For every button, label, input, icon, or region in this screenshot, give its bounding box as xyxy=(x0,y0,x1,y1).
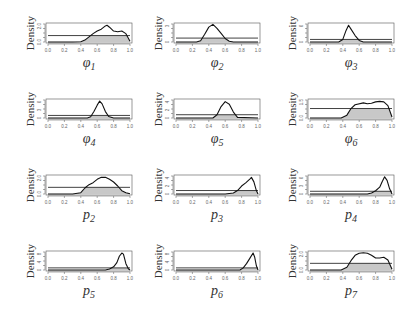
x-tick-label: 0.4 xyxy=(340,124,347,129)
x-tick-label: 0.4 xyxy=(340,276,347,281)
x-tick-label: 0.0 xyxy=(173,276,180,281)
overlap-shaded-area xyxy=(48,187,130,194)
x-tick-label: 0.2 xyxy=(189,200,196,205)
density-panel-phi4: 0.00.20.40.60.81.0036Densityφ4 xyxy=(0,76,134,153)
x-tick-label: 0.6 xyxy=(222,276,229,281)
x-tick-label: 0.0 xyxy=(307,200,314,205)
x-tick-label: 1.0 xyxy=(255,276,262,281)
x-tick-label: 0.2 xyxy=(61,200,68,205)
x-axis-label: p2 xyxy=(82,207,95,224)
x-tick-label: 0.6 xyxy=(356,276,363,281)
y-axis-label: Density xyxy=(24,167,36,202)
y-tick-label: 0 xyxy=(37,116,42,119)
y-tick-label: 6 xyxy=(299,176,304,179)
y-axis-label: Density xyxy=(24,15,36,50)
x-tick-label: 0.4 xyxy=(78,124,85,129)
y-tick-label: 8 xyxy=(37,252,42,255)
x-tick-label: 0.0 xyxy=(45,124,52,129)
x-tick-label: 0.8 xyxy=(372,200,379,205)
y-axis-label: Density xyxy=(24,243,36,278)
x-tick-label: 1.0 xyxy=(389,48,396,53)
y-tick-label: 4 xyxy=(165,176,170,179)
posterior-density-curve xyxy=(48,253,130,270)
x-tick-label: 0.8 xyxy=(372,48,379,53)
x-axis-label: p6 xyxy=(210,283,223,300)
density-panel-phi3: 0.00.20.40.60.81.006Densityφ3 xyxy=(262,0,396,77)
x-tick-label: 0.6 xyxy=(356,48,363,53)
density-panel-phi2: 0.00.20.40.60.81.003Densityφ2 xyxy=(128,0,262,77)
density-plot-grid: 0.00.20.40.60.81.00.02.0Densityφ10.00.20… xyxy=(0,0,403,310)
overlap-shaded-area xyxy=(176,38,258,42)
x-axis-label: p3 xyxy=(210,207,223,224)
x-tick-label: 0.0 xyxy=(173,200,180,205)
x-tick-label: 0.4 xyxy=(206,48,213,53)
x-tick-label: 0.8 xyxy=(372,276,379,281)
density-panel-p5: 0.00.20.40.60.81.0048Densityp5 xyxy=(0,228,134,305)
x-tick-label: 0.4 xyxy=(206,200,213,205)
x-tick-label: 0.8 xyxy=(110,200,117,205)
x-axis-label: φ3 xyxy=(345,55,358,72)
x-tick-label: 0.2 xyxy=(61,276,68,281)
x-tick-label: 0.6 xyxy=(94,276,101,281)
x-tick-label: 0.2 xyxy=(61,48,68,53)
y-tick-label: 0 xyxy=(165,116,170,119)
x-tick-label: 0.0 xyxy=(173,124,180,129)
y-tick-label: 4 xyxy=(37,260,42,263)
y-tick-label: 2 xyxy=(165,108,170,111)
x-tick-label: 0.8 xyxy=(110,48,117,53)
density-panel-p2: 0.00.20.40.60.81.00.02.0Densityp2 xyxy=(0,152,134,229)
y-tick-label: 0 xyxy=(37,268,42,271)
x-axis-label: p7 xyxy=(344,283,358,300)
x-tick-label: 0.6 xyxy=(222,200,229,205)
y-axis-label: Density xyxy=(152,167,164,202)
x-tick-label: 0.4 xyxy=(340,48,347,53)
x-tick-label: 0.6 xyxy=(356,124,363,129)
posterior-density-curve xyxy=(176,253,258,270)
y-tick-label: 0.0 xyxy=(299,266,304,273)
x-tick-label: 0.0 xyxy=(45,48,52,53)
y-axis-label: Density xyxy=(286,15,298,50)
y-tick-label: 0 xyxy=(165,268,170,271)
x-axis-label: φ5 xyxy=(211,131,224,148)
y-axis-label: Density xyxy=(286,243,298,278)
x-tick-label: 0.0 xyxy=(307,124,314,129)
density-panel-p7: 0.00.20.40.60.81.00.02.0Densityp7 xyxy=(262,228,396,305)
x-tick-label: 0.8 xyxy=(110,276,117,281)
y-tick-label: 2 xyxy=(165,184,170,187)
density-panel-phi1: 0.00.20.40.60.81.00.02.0Densityφ1 xyxy=(0,0,134,77)
plot-frame xyxy=(46,99,132,119)
x-tick-label: 0.0 xyxy=(307,48,314,53)
y-tick-label: 4 xyxy=(165,100,170,103)
y-tick-label: 2.0 xyxy=(37,22,42,29)
y-axis-label: Density xyxy=(152,243,164,278)
y-tick-label: 0.0 xyxy=(37,190,42,197)
x-tick-label: 0.2 xyxy=(323,200,330,205)
x-axis-label: φ6 xyxy=(345,131,358,148)
x-tick-label: 1.0 xyxy=(389,276,396,281)
density-panel-phi6: 0.00.20.40.60.81.00.01.5Densityφ6 xyxy=(262,76,396,153)
x-tick-label: 0.0 xyxy=(45,276,52,281)
x-tick-label: 0.8 xyxy=(238,200,245,205)
y-tick-label: 2.0 xyxy=(37,174,42,181)
y-tick-label: 0.0 xyxy=(299,114,304,121)
density-panel-p4: 0.00.20.40.60.81.0036Densityp4 xyxy=(262,152,396,229)
x-tick-label: 0.6 xyxy=(222,48,229,53)
x-tick-label: 0.0 xyxy=(307,276,314,281)
density-panel-p6: 0.00.20.40.60.81.0048Densityp6 xyxy=(128,228,262,305)
x-tick-label: 0.4 xyxy=(206,124,213,129)
x-tick-label: 0.4 xyxy=(206,276,213,281)
y-tick-label: 3 xyxy=(165,24,170,27)
x-tick-label: 0.6 xyxy=(94,124,101,129)
x-tick-label: 0.0 xyxy=(173,48,180,53)
y-tick-label: 4 xyxy=(165,260,170,263)
x-tick-label: 0.8 xyxy=(372,124,379,129)
y-tick-label: 0 xyxy=(299,192,304,195)
x-tick-label: 1.0 xyxy=(389,124,396,129)
density-panel-phi5: 0.00.20.40.60.81.0024Densityφ5 xyxy=(128,76,262,153)
y-tick-label: 0 xyxy=(299,40,304,43)
x-tick-label: 0.2 xyxy=(323,124,330,129)
x-tick-label: 0.8 xyxy=(238,124,245,129)
x-tick-label: 1.0 xyxy=(255,124,262,129)
x-tick-label: 0.6 xyxy=(356,200,363,205)
y-tick-label: 6 xyxy=(299,24,304,27)
